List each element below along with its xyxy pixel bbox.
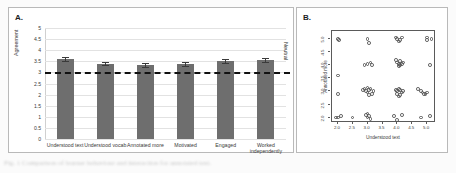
error-bar-cap — [102, 65, 109, 66]
neutral-reference-label: Neutral — [283, 42, 289, 60]
y-tick — [328, 38, 330, 39]
scatter-point — [337, 38, 341, 42]
x-tick-label: 2.5 — [349, 125, 355, 130]
category-label: Annotated more — [123, 142, 167, 148]
scatter-point — [398, 59, 402, 63]
error-bar-cap — [182, 62, 189, 63]
scatter-point — [336, 92, 340, 96]
y-tick-label: 5 — [25, 25, 41, 31]
figure-caption: Fig. 1 Comparison of learner behaviour a… — [0, 158, 456, 173]
scatter-point — [397, 95, 401, 99]
error-bar-cap — [142, 63, 149, 64]
gridline — [45, 128, 286, 129]
panel-a-label: A. — [15, 13, 23, 22]
error-bar-cap — [142, 67, 149, 68]
error-bar-cap — [262, 58, 269, 59]
y-tick-label: 4.5 — [320, 49, 325, 55]
panel-b-y-axis-label: Annotated more — [323, 60, 328, 93]
panel-a: A. Agreement 54.543.532.521.510.50 Under… — [8, 7, 294, 153]
x-tick-label: 5.0 — [423, 125, 429, 130]
category-label: Worked independently — [244, 142, 288, 155]
y-tick — [328, 117, 330, 118]
x-tick — [396, 122, 397, 124]
y-tick — [328, 104, 330, 105]
y-tick — [328, 51, 330, 52]
x-tick-label: 4.0 — [393, 125, 399, 130]
scatter-point — [400, 36, 404, 40]
figure-container: A. Agreement 54.543.532.521.510.50 Under… — [0, 0, 456, 173]
scatter-point — [367, 93, 371, 97]
gridline — [45, 28, 286, 29]
gridline — [45, 39, 286, 40]
bar — [97, 64, 114, 139]
gridline — [45, 95, 286, 96]
y-tick-label: 0.5 — [25, 125, 41, 131]
y-tick-label: 0 — [25, 136, 41, 142]
error-bar-cap — [262, 62, 269, 63]
y-tick-label: 2 — [25, 92, 41, 98]
category-label: Understood text — [43, 142, 87, 148]
x-tick — [367, 122, 368, 124]
x-tick-label: 3.5 — [378, 125, 384, 130]
panel-b-x-axis-label: Understood text — [331, 135, 435, 140]
y-tick-label: 2.5 — [25, 81, 41, 87]
panel-b-plot-area — [331, 30, 435, 122]
error-bar-cap — [62, 61, 69, 62]
y-tick-label: 4.5 — [25, 36, 41, 42]
y-tick — [328, 90, 330, 91]
scatter-point — [428, 63, 432, 67]
scatter-point — [430, 37, 434, 41]
y-tick-label: 2.5 — [320, 102, 325, 108]
y-tick-label: 4 — [25, 47, 41, 53]
y-tick-label: 3.5 — [25, 58, 41, 64]
y-tick — [328, 77, 330, 78]
error-bar-cap — [102, 62, 109, 63]
scatter-point — [336, 74, 340, 78]
gridline — [45, 50, 286, 51]
caption-text: Fig. 1 Comparison of learner behaviour a… — [4, 159, 211, 167]
gridline — [45, 84, 286, 85]
bar — [137, 65, 154, 139]
y-tick-label: 1.5 — [25, 103, 41, 109]
error-bar-cap — [222, 59, 229, 60]
scatter-point — [364, 113, 368, 117]
x-tick — [382, 122, 383, 124]
y-tick-label: 1 — [25, 114, 41, 120]
y-tick — [328, 64, 330, 65]
scatter-point — [425, 38, 429, 42]
x-tick — [352, 122, 353, 124]
scatter-point — [369, 117, 373, 121]
x-tick-label: 4.5 — [408, 125, 414, 130]
category-label: Understood vocab — [83, 142, 127, 148]
category-label: Motivated — [164, 142, 208, 148]
x-tick — [426, 122, 427, 124]
category-label: Engaged — [204, 142, 248, 148]
scatter-point — [361, 88, 365, 92]
error-bar-cap — [222, 63, 229, 64]
scatter-point — [397, 40, 401, 44]
neutral-reference-line — [45, 72, 290, 74]
gridline — [45, 106, 286, 107]
scatter-point — [424, 92, 428, 96]
scatter-point — [397, 64, 401, 68]
x-tick — [337, 122, 338, 124]
scatter-point — [370, 63, 374, 67]
bar — [57, 59, 74, 139]
x-tick-label: 2.0 — [334, 125, 340, 130]
scatter-point — [428, 114, 432, 118]
scatter-point — [400, 113, 404, 117]
y-tick-label: 3 — [25, 69, 41, 75]
panel-a-y-axis-label: Agreement — [13, 30, 19, 56]
error-bar-cap — [182, 66, 189, 67]
x-tick — [411, 122, 412, 124]
gridline — [45, 61, 286, 62]
scatter-point — [367, 41, 371, 45]
scatter-point — [339, 114, 343, 118]
error-bar-cap — [62, 57, 69, 58]
x-tick-label: 3.0 — [364, 125, 370, 130]
y-tick-label: 2.0 — [320, 115, 325, 121]
gridline — [45, 139, 286, 140]
panel-b: B. 2.02.53.03.54.04.55.0 2.02.53.03.54.0… — [296, 7, 448, 153]
gridline — [45, 117, 286, 118]
y-tick-label: 5.0 — [320, 36, 325, 42]
